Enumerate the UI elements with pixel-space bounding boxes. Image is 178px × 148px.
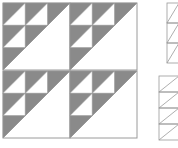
strip-diagonal (167, 3, 178, 23)
strip-diagonal (159, 124, 178, 140)
strip-diagonal (167, 23, 178, 43)
strip-diagonal (159, 108, 178, 124)
strip-diagonal (167, 43, 178, 63)
strip-diagonal (159, 76, 178, 92)
quilt-diagram (0, 0, 178, 148)
strip-diagonal (159, 92, 178, 108)
